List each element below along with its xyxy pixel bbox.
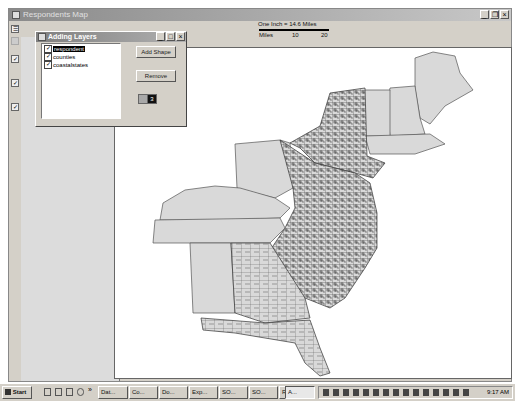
layer-item-counties[interactable]: ✓counties bbox=[44, 53, 75, 61]
tray-icon-2[interactable] bbox=[333, 389, 339, 396]
left-toolbar: ☰ ✓ ✓ ✓ bbox=[9, 23, 21, 383]
tray-icon-7[interactable] bbox=[383, 389, 389, 396]
tray-icon-8[interactable] bbox=[393, 389, 399, 396]
remove-button[interactable]: Remove bbox=[136, 70, 176, 82]
start-label: Start bbox=[13, 389, 27, 395]
close-button[interactable]: × bbox=[500, 10, 509, 19]
taskbar-button-so-1[interactable]: SO... bbox=[219, 386, 248, 399]
symbol-size-button[interactable]: 3 bbox=[147, 94, 157, 104]
minimize-button[interactable]: _ bbox=[480, 10, 489, 19]
scale-unit-label: Miles bbox=[259, 32, 273, 38]
tray-icon-10[interactable] bbox=[413, 389, 419, 396]
add-shape-button[interactable]: Add Shape bbox=[136, 46, 176, 58]
tray-icon-5[interactable] bbox=[363, 389, 369, 396]
taskbar-button-dat[interactable]: Dat... bbox=[98, 386, 128, 399]
layer-visibility-checkbox-2[interactable]: ✓ bbox=[11, 79, 19, 87]
quick-launch-edit-icon[interactable] bbox=[44, 388, 51, 396]
windows-logo-icon bbox=[5, 389, 11, 395]
taskbar-button-label: SO... bbox=[252, 389, 266, 395]
taskbar-button-co[interactable]: Co... bbox=[129, 386, 158, 399]
adding-layers-dialog: Adding Layers _ □ × ✓respondent ✓countie… bbox=[35, 31, 187, 127]
quick-launch-overflow-icon[interactable]: » bbox=[88, 386, 92, 393]
dialog-titlebar[interactable]: Adding Layers _ □ × bbox=[36, 32, 186, 42]
dialog-close-button[interactable]: × bbox=[176, 32, 185, 41]
dialog-title: Adding Layers bbox=[48, 32, 97, 42]
layer-label: coastalstates bbox=[53, 62, 88, 68]
scale-bar-line bbox=[259, 29, 329, 31]
taskbar-button-do[interactable]: Do... bbox=[159, 386, 188, 399]
taskbar-button-label: Do... bbox=[162, 389, 175, 395]
main-window: Respondents Map _ ❐ × One Inch = 14.6 Mi… bbox=[8, 8, 512, 382]
check-icon[interactable]: ✓ bbox=[44, 61, 52, 69]
layer-list[interactable]: ✓respondent ✓counties ✓coastalstates bbox=[41, 43, 121, 119]
tray-icon-3[interactable] bbox=[343, 389, 349, 396]
layer-item-coastalstates[interactable]: ✓coastalstates bbox=[44, 61, 88, 69]
layer-label: respondent bbox=[53, 46, 85, 52]
tray-icon-14[interactable] bbox=[453, 389, 459, 396]
layers-tool-icon[interactable]: ☰ bbox=[11, 25, 19, 33]
taskbar-button-label: Dat... bbox=[101, 389, 115, 395]
window-title: Respondents Map bbox=[23, 9, 88, 21]
taskbar-button-label: Co... bbox=[132, 389, 145, 395]
tray-icon-1[interactable] bbox=[323, 389, 329, 396]
taskbar-button-a-active[interactable]: A... bbox=[285, 386, 315, 399]
tray-icon-12[interactable] bbox=[433, 389, 439, 396]
tray-icon-9[interactable] bbox=[403, 389, 409, 396]
layer-item-respondent[interactable]: ✓respondent bbox=[44, 45, 85, 53]
tray-icon-6[interactable] bbox=[373, 389, 379, 396]
layer-label: counties bbox=[53, 54, 75, 60]
dialog-app-icon bbox=[38, 33, 46, 41]
scale-tick-20: 20 bbox=[321, 32, 328, 38]
layer-visibility-checkbox-1[interactable]: ✓ bbox=[11, 55, 19, 63]
tray-icon-11[interactable] bbox=[423, 389, 429, 396]
taskbar: Start » Dat... Co... Do... Exp... SO... … bbox=[0, 383, 515, 401]
scale-title: One Inch = 14.6 Miles bbox=[258, 21, 317, 27]
dialog-maximize-button[interactable]: □ bbox=[166, 32, 175, 41]
layer-visibility-checkbox-3[interactable]: ✓ bbox=[11, 103, 19, 111]
taskbar-button-so-2[interactable]: SO... bbox=[249, 386, 278, 399]
clock[interactable]: 9:17 AM bbox=[487, 387, 509, 398]
quick-launch-window-icon[interactable] bbox=[66, 388, 73, 396]
tray-icon-4[interactable] bbox=[353, 389, 359, 396]
app-icon bbox=[12, 11, 20, 19]
tray-icon-15[interactable] bbox=[463, 389, 469, 396]
main-titlebar[interactable]: Respondents Map _ ❐ × bbox=[9, 9, 511, 21]
quick-launch-app-icon[interactable] bbox=[77, 388, 84, 396]
start-button[interactable]: Start bbox=[2, 386, 32, 399]
taskbar-button-label: Exp... bbox=[192, 389, 207, 395]
dialog-minimize-button[interactable]: _ bbox=[156, 32, 165, 41]
taskbar-button-label: SO... bbox=[222, 389, 236, 395]
system-tray: 9:17 AM bbox=[318, 386, 513, 399]
disabled-tool-icon bbox=[11, 37, 19, 45]
restore-button[interactable]: ❐ bbox=[490, 10, 499, 19]
scale-tick-10: 10 bbox=[292, 32, 299, 38]
tray-icon-13[interactable] bbox=[443, 389, 449, 396]
taskbar-button-label: A... bbox=[288, 389, 297, 395]
quick-launch-print-icon[interactable] bbox=[55, 388, 62, 396]
taskbar-button-exp[interactable]: Exp... bbox=[189, 386, 218, 399]
